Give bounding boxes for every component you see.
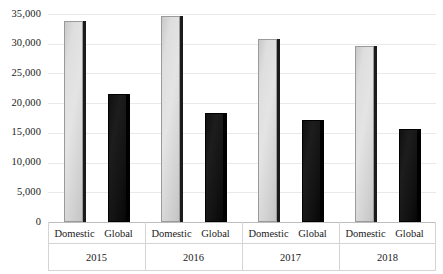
bar-chart: 05,00010,00015,00020,00025,00030,00035,0… <box>0 0 443 274</box>
y-axis: 05,00010,00015,00020,00025,00030,00035,0… <box>0 0 44 236</box>
bar-body <box>205 113 224 222</box>
axis-band-separator <box>145 222 146 244</box>
x-axis-year-label: 2018 <box>339 244 436 271</box>
x-axis-subcategory-label: Global <box>383 222 437 244</box>
bar-2017-global <box>302 120 324 222</box>
bar-body <box>258 39 277 222</box>
axis-band-separator <box>339 222 340 244</box>
bar-shadow-edge <box>277 39 280 222</box>
bar-2016-domestic <box>161 16 183 222</box>
axis-band-separator <box>435 222 436 244</box>
bar-shadow-edge <box>224 113 227 222</box>
bar-shadow-edge <box>83 21 86 222</box>
bar-shadow-edge <box>374 46 377 222</box>
y-axis-tick-label: 5,000 <box>17 187 41 198</box>
x-axis-year-label: 2017 <box>242 244 339 271</box>
y-axis-tick-label: 10,000 <box>12 157 41 168</box>
x-axis-subcategory-label: Global <box>286 222 340 244</box>
bars-layer <box>48 14 436 222</box>
bar-2016-global <box>205 113 227 222</box>
y-axis-tick-label: 15,000 <box>12 127 41 138</box>
bar-shadow-edge <box>321 120 324 222</box>
y-axis-tick-label: 0 <box>36 217 41 228</box>
axis-band-separator <box>48 222 49 244</box>
bar-body <box>161 16 180 222</box>
y-axis-tick-label: 35,000 <box>12 9 41 20</box>
x-axis-subcategory-label: Global <box>92 222 146 244</box>
y-axis-tick-label: 20,000 <box>12 98 41 109</box>
bar-shadow-edge <box>418 129 421 222</box>
bar-2015-global <box>108 94 130 222</box>
bar-body <box>108 94 127 222</box>
y-axis-tick-label: 25,000 <box>12 68 41 79</box>
bar-2015-domestic <box>64 21 86 222</box>
bar-shadow-edge <box>180 16 183 222</box>
bar-2018-global <box>399 129 421 222</box>
x-axis-subcategory-band: DomesticGlobalDomesticGlobalDomesticGlob… <box>48 222 436 244</box>
bar-body <box>302 120 321 222</box>
x-axis-year-band: 2015201620172018 <box>48 244 436 271</box>
bar-2018-domestic <box>355 46 377 222</box>
x-axis-year-label: 2015 <box>48 244 145 271</box>
bar-2017-domestic <box>258 39 280 222</box>
x-axis-year-label: 2016 <box>145 244 242 271</box>
axis-band-separator <box>242 222 243 244</box>
bar-body <box>64 21 83 222</box>
x-axis-subcategory-label: Global <box>189 222 243 244</box>
y-axis-tick-label: 30,000 <box>12 38 41 49</box>
bar-body <box>355 46 374 222</box>
bar-body <box>399 129 418 222</box>
bar-shadow-edge <box>127 94 130 222</box>
